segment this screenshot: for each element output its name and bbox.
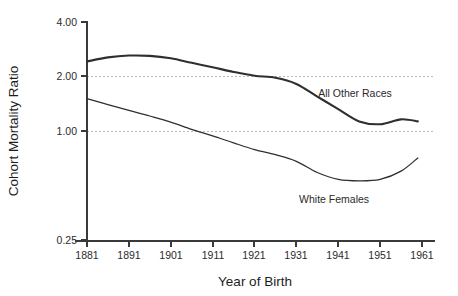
x-tick-label-1931: 1931 — [284, 249, 308, 261]
series-label-white-females: White Females — [299, 193, 369, 205]
y-axis: 4.00 2.00 1.00 0.25 — [57, 16, 87, 246]
x-tick-label-1891: 1891 — [117, 249, 141, 261]
y-tick-label-0.25: 0.25 — [57, 234, 78, 246]
x-tick-label-1881: 1881 — [75, 249, 99, 261]
x-tick-label-1901: 1901 — [159, 249, 183, 261]
y-tick-label-2.00: 2.00 — [57, 70, 78, 82]
x-tick-label-1951: 1951 — [368, 249, 392, 261]
x-axis-title: Year of Birth — [218, 274, 292, 289]
series-annotations: All Other Races White Females — [299, 87, 392, 206]
x-tick-label-1911: 1911 — [202, 249, 225, 261]
y-axis-title: Cohort Mortality Ratio — [6, 66, 21, 197]
x-tick-label-1941: 1941 — [326, 249, 350, 261]
series-label-all-other-races: All Other Races — [318, 87, 392, 99]
x-tick-label-1961: 1961 — [410, 249, 434, 261]
y-tick-label-1.00: 1.00 — [57, 125, 78, 137]
chart-container: 4.00 2.00 1.00 0.25 1881 1891 1901 1911 … — [0, 0, 458, 296]
y-tick-label-4.00: 4.00 — [57, 16, 78, 28]
gridlines — [87, 76, 435, 131]
cohort-mortality-ratio-chart: 4.00 2.00 1.00 0.25 1881 1891 1901 1911 … — [0, 0, 458, 296]
series-line-white-females — [87, 99, 418, 181]
data-series-group — [87, 55, 418, 180]
x-axis: 1881 1891 1901 1911 1921 1931 1941 1951 … — [75, 241, 435, 261]
x-tick-label-1921: 1921 — [242, 249, 266, 261]
